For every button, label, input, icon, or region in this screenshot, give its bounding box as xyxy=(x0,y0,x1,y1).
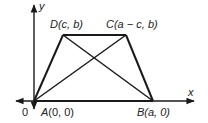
point-d-coords: (c, b) xyxy=(58,18,83,30)
point-a-name: A xyxy=(40,106,48,118)
origin-label: 0 xyxy=(22,106,28,118)
point-c-label: C(a − c, b) xyxy=(106,18,158,30)
x-axis-label: x xyxy=(187,86,194,98)
point-c-name: C xyxy=(106,18,114,30)
trapezoid-diagram: y x 0 D(c, b) C(a − c, b) A(0, 0) B(a, 0… xyxy=(0,0,208,123)
point-a-coords: (0, 0) xyxy=(48,106,74,118)
y-axis-label: y xyxy=(38,0,46,12)
point-b-coords: (a, 0) xyxy=(144,106,170,118)
point-b-label: B(a, 0) xyxy=(137,106,170,118)
point-d-name: D xyxy=(50,18,58,30)
point-b-name: B xyxy=(137,106,144,118)
diagonals xyxy=(34,35,153,101)
point-d-label: D(c, b) xyxy=(50,18,83,30)
point-c-coords: (a − c, b) xyxy=(114,18,158,30)
trapezoid xyxy=(34,35,153,101)
point-a-label: A(0, 0) xyxy=(40,106,74,118)
